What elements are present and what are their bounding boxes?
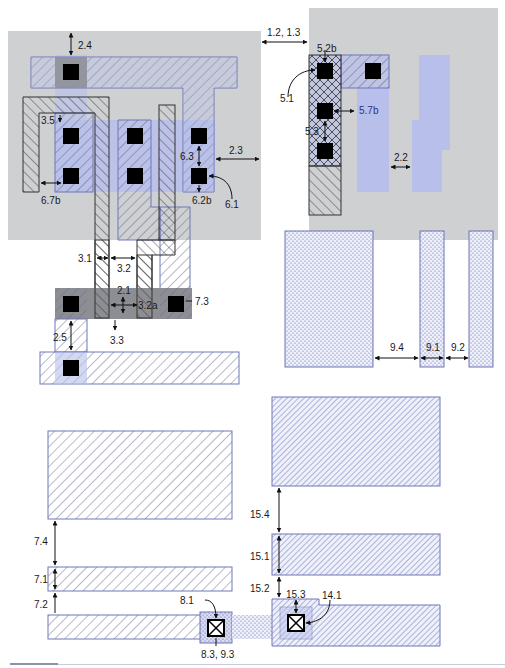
metal2-blocks-left — [48, 431, 232, 639]
label-2-2: 2.2 — [394, 152, 408, 163]
label-5-3: 5.3 — [305, 126, 319, 137]
label-6-3: 6.3 — [180, 151, 194, 162]
label-3-2a: 3.2a — [138, 300, 158, 311]
label-2-3: 2.3 — [229, 145, 243, 156]
label-2-4: 2.4 — [78, 40, 92, 51]
label-14-1: 14.1 — [322, 590, 342, 601]
label-2-5: 2.5 — [53, 332, 67, 343]
label-7-3: 7.3 — [195, 296, 209, 307]
label-7-4: 7.4 — [34, 536, 48, 547]
metal1-right-top-bar — [341, 55, 389, 88]
label-5-1: 5.1 — [280, 93, 294, 104]
label-15-1: 15.1 — [250, 551, 270, 562]
label-3-5: 3.5 — [41, 115, 55, 126]
label-6-2b: 6.2b — [192, 195, 212, 206]
label-5-2b: 5.2b — [317, 43, 337, 54]
label-6-7b: 6.7b — [41, 195, 61, 206]
via-region-8-1 — [200, 612, 280, 643]
label-5-7b: 5.7b — [359, 105, 379, 116]
diagram-svg: 2.4 1.2, 1.3 5.2b 5.1 5.7b 5.3 3.5 6.3 2… — [0, 0, 505, 668]
label-15-2: 15.2 — [250, 583, 270, 594]
label-7-2: 7.2 — [34, 599, 48, 610]
label-2-1: 2.1 — [117, 285, 131, 296]
label-7-1: 7.1 — [34, 574, 48, 585]
bottom-divider-accent — [10, 663, 58, 665]
metal1-bottom-bar — [40, 352, 239, 384]
label-8-3-9-3: 8.3, 9.3 — [201, 649, 235, 660]
label-9-1: 9.1 — [426, 342, 440, 353]
label-3-2: 3.2 — [117, 263, 131, 274]
label-8-1: 8.1 — [180, 595, 194, 606]
layout-design-rules-diagram: 2.4 1.2, 1.3 5.2b 5.1 5.7b 5.3 3.5 6.3 2… — [0, 0, 505, 668]
label-3-3: 3.3 — [110, 335, 124, 346]
label-15-4: 15.4 — [250, 509, 270, 520]
label-15-3: 15.3 — [286, 589, 306, 600]
label-6-1: 6.1 — [225, 199, 239, 210]
label-1-2-1-3: 1.2, 1.3 — [267, 27, 301, 38]
label-3-1: 3.1 — [78, 253, 92, 264]
metal3-blocks-right — [272, 397, 440, 646]
label-9-4: 9.4 — [390, 342, 404, 353]
label-9-2: 9.2 — [451, 342, 465, 353]
bottom-divider — [10, 664, 505, 665]
